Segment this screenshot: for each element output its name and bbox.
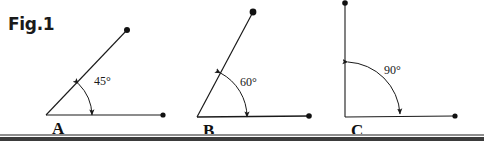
diagram-b-angle-label: 60° bbox=[240, 76, 257, 88]
figure-container: Fig.1 45° A 60° B 90° C bbox=[0, 0, 484, 142]
angle-diagrams-canvas bbox=[0, 0, 484, 142]
diagram-c-geometry bbox=[342, 0, 457, 118]
diagram-b-inclined-endpoint-dot bbox=[250, 9, 257, 16]
diagram-a-angle-arc bbox=[79, 84, 93, 115]
diagram-c-vertical-endpoint-dot bbox=[342, 0, 348, 6]
diagram-c-angle-label: 90° bbox=[384, 64, 401, 76]
bottom-divider-light bbox=[0, 134, 484, 136]
bottom-divider-dark bbox=[0, 137, 484, 141]
figure-title: Fig.1 bbox=[8, 16, 54, 33]
diagram-a-inclined-ray bbox=[46, 30, 127, 115]
diagram-b-horizontal-endpoint-dot bbox=[306, 113, 312, 119]
diagram-a-horizontal-endpoint-dot bbox=[160, 112, 165, 117]
diagram-c-horizontal-ray bbox=[345, 116, 455, 117]
diagram-b-geometry bbox=[197, 9, 312, 119]
diagram-a-angle-label: 45° bbox=[94, 75, 111, 87]
diagram-a-geometry bbox=[46, 27, 166, 118]
diagram-c-horizontal-endpoint-dot bbox=[452, 113, 457, 118]
diagram-a-inclined-endpoint-dot bbox=[124, 27, 130, 33]
diagram-b-horizontal-ray bbox=[197, 116, 309, 117]
